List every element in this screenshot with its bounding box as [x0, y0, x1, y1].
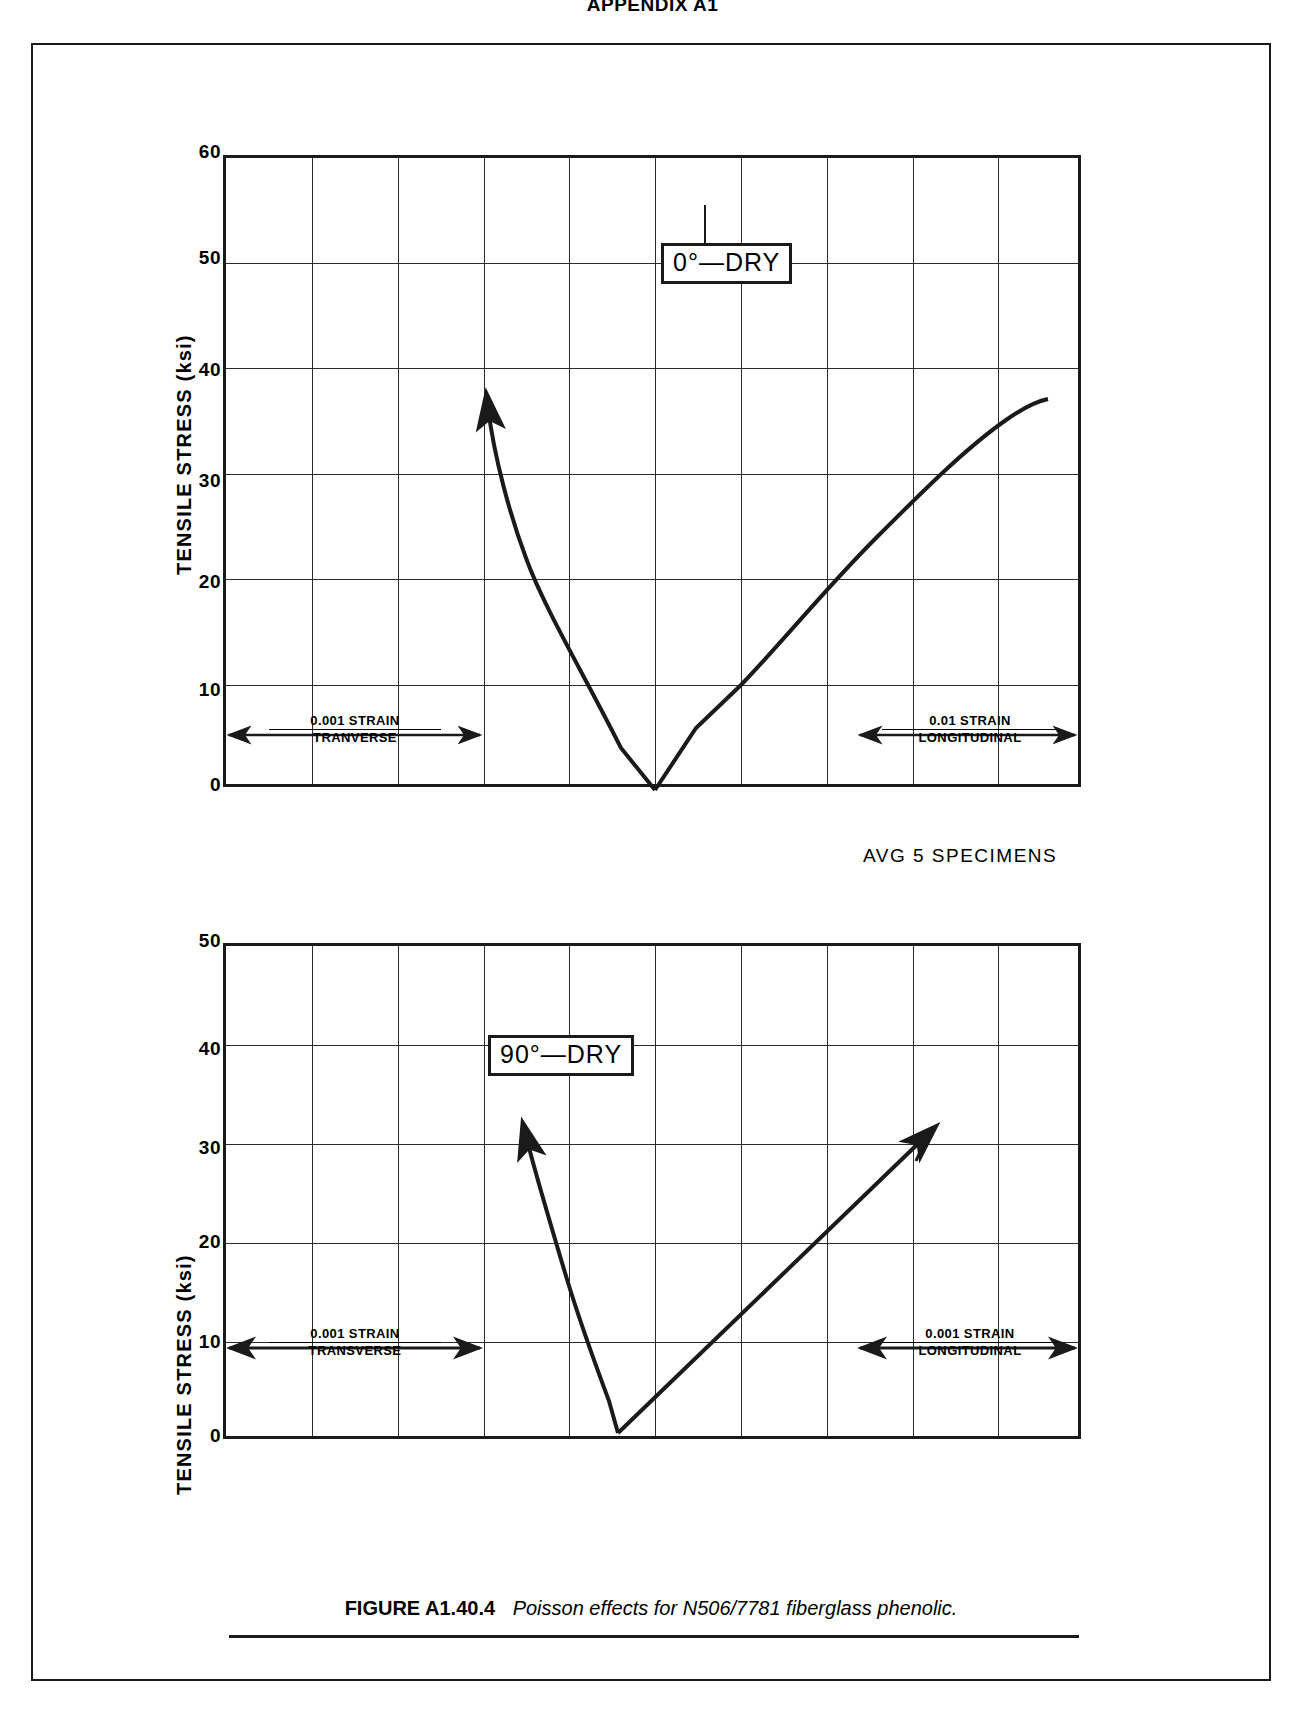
annotation-right-bottom: 0.001 STRAIN LONGITUDINAL	[882, 1326, 1058, 1358]
annotation-arrows-top	[33, 45, 1269, 805]
annotation-right-top-line1: 0.01 STRAIN	[882, 713, 1058, 728]
annotation-left-top: 0.001 STRAIN TRANVERSE	[269, 713, 441, 745]
chart-bottom: TENSILE STRESS (ksi) 50 40 30 20 10 0	[33, 905, 1269, 1595]
figure-caption: FIGURE A1.40.4 Poisson effects for N506/…	[33, 1597, 1269, 1620]
annotation-right-top-line2: LONGITUDINAL	[882, 730, 1058, 745]
page-header: APPENDIX A1	[0, 0, 1305, 16]
avg-specimens-note: AVG 5 SPECIMENS	[863, 845, 1057, 867]
figure-caption-text: Poisson effects for N506/7781 fiberglass…	[513, 1597, 958, 1619]
annotation-left-bottom-line1: 0.001 STRAIN	[269, 1326, 441, 1341]
annotation-left-bottom-line2: TRANSVERSE	[269, 1343, 441, 1358]
annotation-right-top: 0.01 STRAIN LONGITUDINAL	[882, 713, 1058, 745]
annotation-right-bottom-line1: 0.001 STRAIN	[882, 1326, 1058, 1341]
annotation-left-top-line2: TRANVERSE	[269, 730, 441, 745]
chart-top: TENSILE STRESS (ksi) 60 50 40 30 20 10 0	[33, 45, 1269, 805]
figure-frame: TENSILE STRESS (ksi) 60 50 40 30 20 10 0	[31, 43, 1271, 1681]
figure-caption-label: FIGURE A1.40.4	[345, 1597, 495, 1619]
annotation-left-top-line1: 0.001 STRAIN	[269, 713, 441, 728]
annotation-left-bottom: 0.001 STRAIN TRANSVERSE	[269, 1326, 441, 1358]
annotation-right-bottom-line2: LONGITUDINAL	[882, 1343, 1058, 1358]
annotation-arrows-bottom	[33, 905, 1269, 1595]
caption-rule	[229, 1635, 1079, 1638]
